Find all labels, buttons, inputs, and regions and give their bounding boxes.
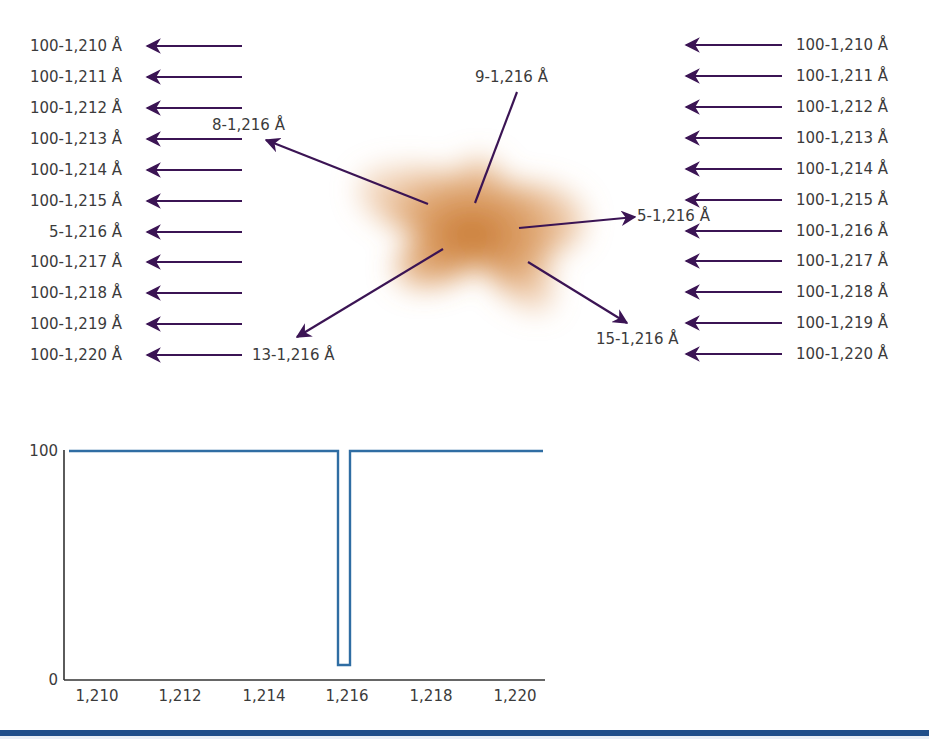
right-incoming-arrows	[686, 45, 782, 354]
scatter-arrow-lower-left	[297, 249, 443, 337]
y-tick-label: 0	[0, 671, 58, 689]
scattered-label-lower-right: 15-1,216 Å	[596, 330, 678, 348]
scattered-label-right: 5-1,216 Å	[637, 207, 710, 225]
right-incoming-label: 100-1,219 Å	[796, 314, 888, 332]
left-incoming-arrows	[147, 46, 242, 355]
x-tick-label: 1,214	[243, 687, 286, 705]
left-incoming-label: 100-1,213 Å	[0, 130, 122, 148]
scattered-label-upper-left: 8-1,216 Å	[212, 116, 285, 134]
gas-cloud	[358, 157, 585, 312]
right-incoming-label: 100-1,212 Å	[796, 98, 888, 116]
y-tick-label: 100	[0, 442, 58, 460]
right-incoming-label: 100-1,218 Å	[796, 283, 888, 301]
left-incoming-label: 5-1,216 Å	[0, 223, 122, 241]
left-incoming-label: 100-1,212 Å	[0, 99, 122, 117]
left-incoming-label: 100-1,210 Å	[0, 37, 122, 55]
scattering-diagram	[0, 0, 929, 400]
spectrum-chart: 100 0 1,210 1,212 1,214 1,216 1,218 1,22…	[0, 430, 560, 710]
spectrum-plot	[0, 430, 560, 710]
left-incoming-label: 100-1,214 Å	[0, 161, 122, 179]
x-tick-label: 1,216	[326, 687, 369, 705]
x-tick-label: 1,210	[76, 687, 119, 705]
right-incoming-label: 100-1,220 Å	[796, 345, 888, 363]
x-tick-label: 1,220	[494, 687, 537, 705]
left-incoming-label: 100-1,218 Å	[0, 284, 122, 302]
scattered-label-up: 9-1,216 Å	[475, 68, 548, 86]
left-incoming-label: 100-1,217 Å	[0, 253, 122, 271]
left-incoming-label: 100-1,219 Å	[0, 315, 122, 333]
right-incoming-label: 100-1,214 Å	[796, 160, 888, 178]
right-incoming-label: 100-1,217 Å	[796, 252, 888, 270]
left-incoming-label: 100-1,220 Å	[0, 346, 122, 364]
left-incoming-label: 100-1,215 Å	[0, 192, 122, 210]
right-incoming-label: 100-1,211 Å	[796, 67, 888, 85]
scattered-label-lower-left: 13-1,216 Å	[252, 346, 334, 364]
lyman-alpha-scattering-figure: 100-1,210 Å 100-1,211 Å 100-1,212 Å 100-…	[0, 0, 929, 739]
x-tick-label: 1,212	[159, 687, 202, 705]
right-incoming-label: 100-1,210 Å	[796, 36, 888, 54]
right-incoming-label: 100-1,216 Å	[796, 222, 888, 240]
left-incoming-label: 100-1,211 Å	[0, 68, 122, 86]
right-incoming-label: 100-1,215 Å	[796, 191, 888, 209]
right-incoming-label: 100-1,213 Å	[796, 129, 888, 147]
spectrum-line	[69, 451, 543, 665]
x-tick-label: 1,218	[410, 687, 453, 705]
